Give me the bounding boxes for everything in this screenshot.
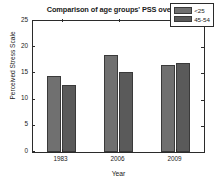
plot-area [32,20,205,153]
y-tick-mark [32,72,35,73]
x-tick-mark-top [119,19,120,22]
chart-figure: Comparison of age groups' PSS over time … [0,0,217,185]
bar-group [90,19,147,152]
y-tick-label: 0 [24,147,28,154]
bar [62,85,76,152]
x-tick-label: 2009 [146,155,203,162]
y-tick: 15 [0,72,32,73]
y-tick-mark [32,125,35,126]
y-tick: 5 [0,125,32,126]
y-tick-mark-right [201,152,204,153]
x-tick-mark [119,149,120,152]
y-tick-label: 20 [21,42,28,49]
y-tick: 0 [0,151,32,152]
y-tick-label: 15 [21,68,28,75]
x-tick-mark [176,149,177,152]
y-tick: 10 [0,99,32,100]
chart-legend: <2545-54 [170,3,214,27]
bar [161,65,175,153]
legend-item[interactable]: <25 [174,7,210,15]
y-axis-label: Perceived Stress Scale [9,6,16,126]
y-tick-label: 5 [24,120,28,127]
x-tick-label: 1983 [32,155,89,162]
bar-group [147,19,204,152]
legend-item[interactable]: 45-54 [174,15,210,23]
y-tick-mark [32,99,35,100]
legend-label: <25 [194,7,205,14]
bar [119,72,133,152]
legend-swatch [174,16,192,23]
y-tick: 25 [0,20,32,21]
bar [176,63,190,152]
legend-label: 45-54 [194,16,210,23]
bar-group [33,19,90,152]
y-tick-mark [32,46,35,47]
y-tick-label: 10 [21,94,28,101]
x-tick-mark [62,149,63,152]
bar [47,76,61,153]
y-tick-label: 25 [21,16,28,23]
x-tick-label: 2006 [89,155,146,162]
legend-swatch [174,7,192,14]
x-axis-label: Year [32,170,205,177]
y-tick-mark [32,151,35,152]
y-tick: 20 [0,46,32,47]
y-tick-mark [32,20,35,21]
plot-inner [33,21,204,152]
x-tick-mark-top [62,19,63,22]
bar [104,55,118,152]
